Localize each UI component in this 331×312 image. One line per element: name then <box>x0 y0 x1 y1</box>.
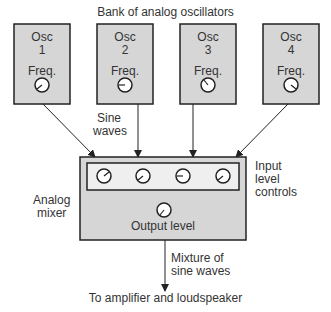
input-knob-icon-4 <box>216 169 230 183</box>
analog-mixer-label-line2: mixer <box>37 207 66 220</box>
input-level-label-line3: controls <box>255 186 297 199</box>
osc-2-number: 2 <box>97 44 153 57</box>
input-knob-icon-2 <box>136 169 150 183</box>
osc-3-freq-label: Freq. <box>180 65 236 78</box>
destination-label: To amplifier and loudspeaker <box>0 292 331 305</box>
sine-waves-label-line2: waves <box>93 125 127 138</box>
output-knob-icon <box>157 203 171 217</box>
osc-2-freq-label: Freq. <box>97 65 153 78</box>
freq-knob-icon-4 <box>284 78 298 92</box>
input-knob-icon-3 <box>176 169 190 183</box>
output-level-label: Output level <box>80 220 246 233</box>
osc-1-freq-label: Freq. <box>14 65 70 78</box>
mixture-label-line2: sine waves <box>171 265 230 278</box>
osc-1-number: 1 <box>14 44 70 57</box>
freq-knob-icon-3 <box>201 78 215 92</box>
diagram-title: Bank of analog oscillators <box>0 6 331 19</box>
input-knob-icon-1 <box>97 169 111 183</box>
freq-knob-icon-1 <box>35 78 49 92</box>
osc-4-freq-label: Freq. <box>263 65 319 78</box>
freq-knob-icon-2 <box>118 78 132 92</box>
arrow-osc4-to-mixer <box>236 104 288 157</box>
arrow-osc1-to-mixer <box>43 104 95 157</box>
osc-4-number: 4 <box>263 44 319 57</box>
osc-3-number: 3 <box>180 44 236 57</box>
